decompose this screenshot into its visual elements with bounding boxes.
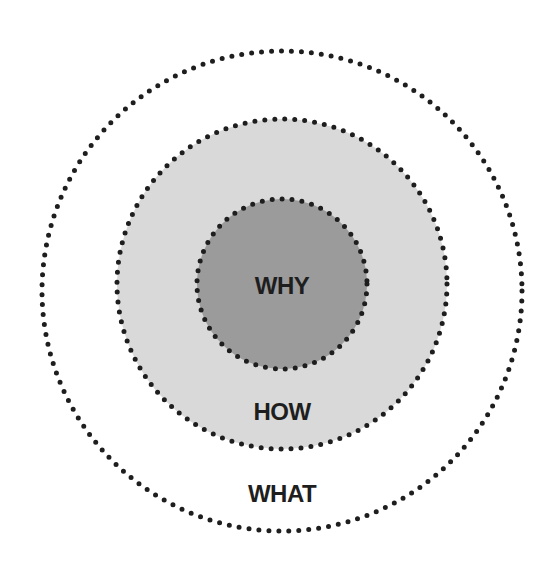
label-why: WHY (255, 272, 310, 299)
label-how: HOW (253, 398, 311, 425)
golden-circle-diagram: WHY HOW WHAT (0, 0, 560, 568)
label-what: WHAT (248, 480, 317, 507)
